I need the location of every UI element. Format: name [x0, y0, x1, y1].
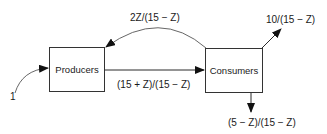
consumers-out-bottom-label: (5 − Z)/(15 − Z)	[228, 117, 296, 128]
consumers-label: Consumers	[210, 65, 259, 76]
input-arrow	[15, 68, 48, 93]
consumers-to-producers-arrow	[106, 28, 206, 48]
producers-to-consumers-label: (15 + Z)/(15 − Z)	[117, 79, 190, 90]
flow-diagram: Producers Consumers 1 (15 + Z)/(15 − Z) …	[0, 0, 327, 134]
consumers-out-top-arrow	[262, 29, 281, 48]
consumers-to-producers-label: 2Z/(15 − Z)	[130, 12, 180, 23]
consumers-out-top-label: 10/(15 − Z)	[266, 14, 315, 25]
input-flow-label: 1	[10, 91, 16, 102]
producers-label: Producers	[55, 64, 99, 75]
